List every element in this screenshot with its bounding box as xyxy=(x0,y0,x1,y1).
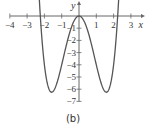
x-tick-label: 2 xyxy=(111,20,116,30)
y-tick-label: −3 xyxy=(66,48,76,58)
y-axis-arrow-icon xyxy=(77,1,81,5)
x-axis-arrow-icon xyxy=(141,14,145,18)
figure-caption: (b) xyxy=(0,113,146,124)
x-axis-label: x xyxy=(138,19,144,30)
x-tick-label: −4 xyxy=(5,20,15,30)
x-tick-label: 1 xyxy=(94,20,99,30)
y-tick-label: −7 xyxy=(66,96,76,106)
x-tick-label: −3 xyxy=(22,20,32,30)
y-tick-label: −6 xyxy=(66,84,76,94)
y-tick-label: −4 xyxy=(66,60,76,70)
x-tick-label: −1 xyxy=(57,20,67,30)
y-axis-label: y xyxy=(70,0,76,11)
x-tick-label: 3 xyxy=(129,20,134,30)
y-tick-label: −5 xyxy=(66,72,76,82)
